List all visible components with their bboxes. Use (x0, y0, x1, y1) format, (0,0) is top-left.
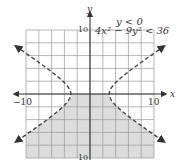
inequality-label-2: 4x² − 9y² < 36 (94, 25, 170, 36)
tick-label-x-right: 10 (148, 97, 160, 107)
tick-label-y-top: 10 (78, 25, 88, 34)
tick-label-x-left: −10 (13, 97, 32, 107)
inequality-graph: y x −10 10 10 10 y < 0 4x² − 9y² < 36 (0, 0, 187, 168)
y-axis-label: y (86, 4, 93, 14)
tick-label-y-bottom: 10 (78, 153, 88, 162)
x-axis-label: x (170, 89, 175, 99)
